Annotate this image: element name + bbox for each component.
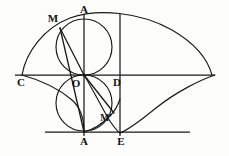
point-marker-o (83, 74, 86, 77)
lower-cycloid-right-branch (120, 75, 215, 133)
label-c-left: C (17, 76, 25, 88)
chord-o-to-m-upper (60, 28, 84, 75)
label-m-upper: M (48, 12, 59, 24)
label-o-origin: O (72, 77, 81, 89)
label-m-lower: M' (100, 113, 112, 123)
label-e-bottom: E (117, 135, 124, 147)
label-a-top: A (80, 3, 88, 15)
chord-o-to-m-lower (84, 75, 114, 113)
cycloid-diagram: A M C O D M' A E (0, 0, 229, 156)
label-d-right: D (113, 76, 121, 88)
figure-container: A M C O D M' A E (0, 0, 229, 156)
label-a-bottom: A (80, 135, 88, 147)
